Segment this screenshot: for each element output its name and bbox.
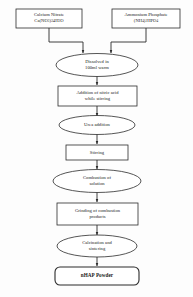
node-grinding	[57, 203, 138, 225]
node-urea-addition	[59, 116, 135, 135]
node-combustion	[53, 170, 141, 193]
flowchart-graphics	[0, 0, 193, 297]
connector-phosphate-to-dissolved	[111, 28, 146, 53]
node-nitric-acid	[58, 86, 137, 106]
node-ammonium-phosphate	[112, 9, 180, 28]
flowchart-canvas: Calcium Nitrate Ca(NO3)24H2O Ammonium Ph…	[0, 0, 193, 297]
node-calcium-nitrate	[16, 9, 82, 28]
node-nhap-powder	[55, 267, 139, 285]
node-stirring	[66, 145, 128, 160]
node-calcination	[57, 235, 137, 257]
connector-calcium-to-dissolved	[49, 28, 83, 53]
node-dissolved	[56, 54, 138, 77]
